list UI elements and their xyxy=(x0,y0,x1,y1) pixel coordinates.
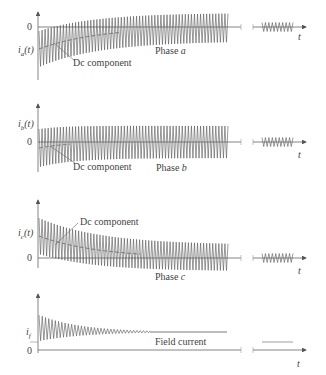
field-t-label: t xyxy=(297,359,300,369)
phase-c-zero-label: 0 xyxy=(27,253,32,263)
phase-c-title: Phase c xyxy=(155,272,185,282)
phase-a-dc-label: Dc component xyxy=(73,58,132,68)
phase-b-zero-label: 0 xyxy=(27,137,32,147)
phase-a-t-label: t xyxy=(298,32,301,42)
phase-a-zero-label: 0 xyxy=(27,22,32,32)
phase-a-ylabel: ia(t) xyxy=(18,45,34,58)
phase-c-t-label: t xyxy=(298,266,301,276)
phase-c-dc-label: Dc component xyxy=(80,217,139,227)
field-ylabel: if xyxy=(26,327,31,340)
phase-b-ylabel: ib(t) xyxy=(18,119,34,132)
field-current-caption: Field current xyxy=(155,337,206,347)
phase-b-title: Phase b xyxy=(156,163,187,173)
phase-c-plot xyxy=(38,200,306,271)
phase-c-ylabel: ic(t) xyxy=(18,228,33,241)
phase-b-dc-label: Dc component xyxy=(73,162,132,172)
phase-a-title: Phase a xyxy=(155,46,186,56)
field-zero-label: 0 xyxy=(27,346,32,356)
short-circuit-waveforms xyxy=(0,0,326,375)
phase-b-t-label: t xyxy=(298,150,301,160)
